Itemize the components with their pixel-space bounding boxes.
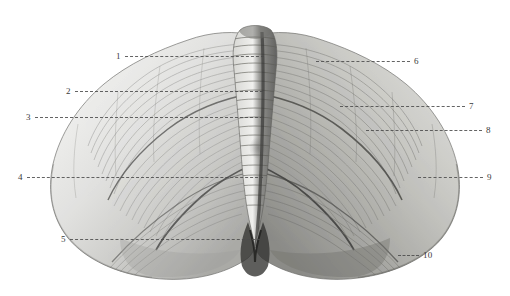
callout-2[interactable]: 2 [66, 84, 263, 98]
callout-4[interactable]: 4 [18, 170, 263, 184]
cerebellum-illustration [0, 0, 510, 296]
leader-line-6 [316, 61, 410, 62]
leader-line-1 [125, 56, 264, 57]
callout-10[interactable]: 10 [398, 248, 432, 262]
callout-number-8: 8 [486, 126, 491, 135]
callout-1[interactable]: 1 [116, 49, 264, 63]
leader-line-10 [398, 255, 419, 256]
callout-number-5: 5 [61, 235, 66, 244]
callout-number-2: 2 [66, 87, 71, 96]
leader-line-9 [418, 177, 483, 178]
leader-line-8 [366, 130, 482, 131]
anatomical-figure: 12345678910 [0, 0, 510, 296]
callout-number-6: 6 [414, 57, 419, 66]
callout-number-9: 9 [487, 173, 492, 182]
leader-line-5 [70, 239, 260, 240]
leader-line-7 [340, 106, 465, 107]
leader-line-2 [75, 91, 263, 92]
callout-5[interactable]: 5 [61, 232, 260, 246]
callout-9[interactable]: 9 [418, 170, 492, 184]
callout-number-4: 4 [18, 173, 23, 182]
callout-8[interactable]: 8 [366, 123, 491, 137]
callout-6[interactable]: 6 [316, 54, 419, 68]
callout-3[interactable]: 3 [26, 110, 263, 124]
callout-number-10: 10 [423, 251, 432, 260]
leader-line-3 [35, 117, 263, 118]
leader-line-4 [27, 177, 263, 178]
callout-7[interactable]: 7 [340, 99, 474, 113]
callout-number-3: 3 [26, 113, 31, 122]
paper-tone-overlay [0, 0, 510, 296]
callout-number-1: 1 [116, 52, 121, 61]
callout-number-7: 7 [469, 102, 474, 111]
